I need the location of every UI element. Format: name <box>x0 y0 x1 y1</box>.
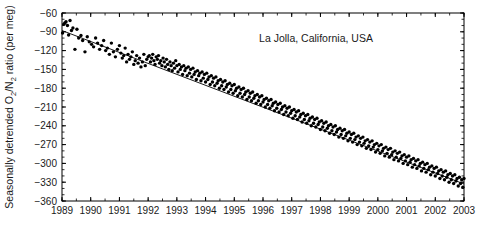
data-point <box>134 59 137 62</box>
data-point <box>312 122 315 125</box>
data-point <box>237 85 240 88</box>
x-tick-label: 1994 <box>194 205 217 216</box>
data-point <box>233 83 236 86</box>
data-point <box>269 98 272 101</box>
data-point <box>351 140 354 143</box>
data-point <box>218 87 221 90</box>
data-point <box>288 105 291 108</box>
data-point <box>282 113 285 116</box>
data-point <box>174 59 177 62</box>
data-point <box>213 84 216 87</box>
data-point <box>411 165 414 168</box>
data-point <box>355 143 358 146</box>
data-point <box>266 103 269 106</box>
y-tick-label: −120 <box>34 45 57 56</box>
data-point <box>268 107 271 110</box>
data-point <box>401 162 404 165</box>
data-point <box>279 102 282 105</box>
data-point <box>311 115 314 118</box>
data-point <box>156 58 159 61</box>
data-point <box>274 100 277 103</box>
data-point <box>100 44 103 47</box>
data-point <box>404 159 407 162</box>
data-point <box>161 56 164 59</box>
data-point <box>67 33 70 36</box>
data-point <box>376 148 379 151</box>
y-axis-title-post: ratio (per meg) <box>3 5 15 77</box>
data-point <box>397 159 400 162</box>
data-point <box>420 169 423 172</box>
data-point <box>259 103 262 106</box>
data-point <box>173 66 176 69</box>
data-point <box>190 75 193 78</box>
data-point <box>447 181 450 184</box>
x-tick-label: 1991 <box>108 205 131 216</box>
data-point <box>166 63 169 66</box>
data-point <box>287 114 290 117</box>
data-point <box>208 83 211 86</box>
data-point <box>302 112 305 115</box>
data-point <box>248 95 251 98</box>
data-point <box>160 64 163 67</box>
data-point <box>291 117 294 120</box>
data-point <box>102 39 105 42</box>
data-point <box>378 152 381 155</box>
data-point <box>256 93 259 96</box>
data-point <box>395 155 398 158</box>
data-point <box>352 132 355 135</box>
data-point <box>191 66 194 69</box>
data-point <box>370 139 373 142</box>
data-point <box>360 144 363 147</box>
y-axis-title: Seasonally detrended O2/N2 ratio (per me… <box>3 5 18 208</box>
data-point <box>458 175 461 178</box>
data-point <box>385 152 388 155</box>
data-point <box>241 95 244 98</box>
y-tick-label: −330 <box>34 177 57 188</box>
data-point <box>443 178 446 181</box>
data-point <box>66 24 69 27</box>
data-point <box>303 118 306 121</box>
data-point <box>380 143 383 146</box>
data-point <box>149 60 152 63</box>
data-point <box>421 160 424 163</box>
data-point <box>275 107 278 110</box>
data-point <box>449 172 452 175</box>
chart-figure: Seasonally detrended O2/N2 ratio (per me… <box>0 0 477 234</box>
data-point <box>338 127 341 130</box>
data-point <box>71 26 74 29</box>
data-point <box>361 135 364 138</box>
data-point <box>116 48 119 51</box>
x-tick-label: 1997 <box>281 205 304 216</box>
data-point <box>305 122 308 125</box>
y-tick-label: −60 <box>40 8 57 19</box>
data-point <box>157 54 160 57</box>
data-point <box>358 140 361 143</box>
data-point <box>369 148 372 151</box>
data-point <box>461 186 464 189</box>
data-point <box>176 70 179 73</box>
data-point <box>422 167 425 170</box>
data-point <box>61 31 64 34</box>
data-point <box>144 64 147 67</box>
data-point <box>75 28 78 31</box>
data-point <box>415 167 418 170</box>
data-point <box>92 45 95 48</box>
y-tick-label: −90 <box>40 26 57 37</box>
data-point <box>260 94 263 97</box>
data-point <box>366 138 369 141</box>
data-point <box>323 129 326 132</box>
data-point <box>185 74 188 77</box>
data-point <box>220 84 223 87</box>
data-point <box>277 110 280 113</box>
data-point <box>83 50 86 53</box>
data-point <box>265 97 268 100</box>
data-point <box>435 165 438 168</box>
data-point <box>114 55 117 58</box>
data-point <box>439 168 442 171</box>
data-point <box>429 173 432 176</box>
data-point <box>123 46 126 49</box>
data-point <box>334 124 337 127</box>
y-tick-label: −150 <box>34 64 57 75</box>
data-point <box>324 120 327 123</box>
y-tick-label: −240 <box>34 120 57 131</box>
